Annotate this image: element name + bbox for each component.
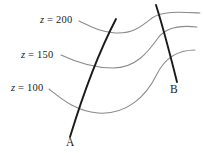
contour-label-z-150: z = 150 (21, 50, 53, 61)
contour-figure-canvas (0, 0, 203, 153)
endpoint-label-b: B (170, 84, 178, 96)
contour-label-z-200-relation: = (44, 14, 56, 25)
contour-label-z-150-value: 150 (37, 49, 53, 60)
contour-label-z-100-relation: = (15, 82, 27, 93)
contour-figure: z = 200 z = 150 z = 100 A B (0, 0, 203, 153)
contour-label-z-100: z = 100 (11, 83, 43, 94)
endpoint-label-a: A (66, 137, 74, 149)
contour-label-z-200: z = 200 (40, 15, 72, 26)
contour-label-z-150-relation: = (25, 49, 37, 60)
contour-label-z-200-value: 200 (56, 14, 72, 25)
contour-label-z-100-value: 100 (27, 82, 43, 93)
figure-background (0, 0, 203, 153)
